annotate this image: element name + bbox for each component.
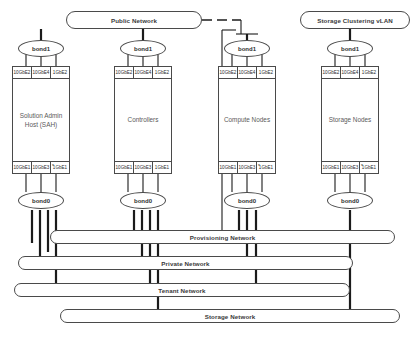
- port-1gbe1[interactable]: * 1GbE1: [51, 162, 69, 173]
- port-10gbe3[interactable]: 10GbE3: [32, 162, 51, 173]
- port-10gbe3[interactable]: 10GbE3: [341, 162, 360, 173]
- port-10gbe2[interactable]: 10GbE2: [219, 67, 238, 78]
- network-bar-label: Storage Clustering vLAN: [317, 17, 393, 24]
- bond-label: bond0: [32, 198, 50, 204]
- node-label-line1: Storage Nodes: [329, 115, 372, 124]
- port-label: 10GbE2: [14, 70, 31, 75]
- bond0-ellipse-controllers[interactable]: bond0: [120, 192, 166, 209]
- port-label: 10GbE1: [220, 165, 237, 170]
- port-1gbe2[interactable]: 1GbE2: [360, 67, 378, 78]
- node-label-line1: Controllers: [128, 115, 159, 124]
- bond0-ellipse-compute-nodes[interactable]: bond0: [224, 192, 270, 209]
- footnote-asterisk: *: [52, 164, 54, 169]
- network-bar-tenant-network[interactable]: Tenant Network: [14, 283, 350, 297]
- port-label: 10GbE3: [239, 165, 256, 170]
- network-bar-storage-clustering-vlan[interactable]: Storage Clustering vLAN: [300, 11, 410, 29]
- port-1gbe2[interactable]: 1GbE2: [153, 67, 171, 78]
- port-label: 10GbE3: [135, 165, 152, 170]
- node-body-solution-admin-host: Solution Admin Host (SAH): [12, 78, 70, 162]
- port-row-bottom-solution-admin-host: 10GbE1 10GbE3 * 1GbE1: [12, 161, 70, 174]
- port-label: 10GbE3: [33, 165, 50, 170]
- bond-label: bond0: [238, 198, 256, 204]
- bond-label: bond1: [32, 46, 50, 52]
- node-body-controllers: Controllers: [114, 78, 172, 162]
- port-label: 10GbE1: [323, 165, 340, 170]
- port-label: 10GbE3: [342, 165, 359, 170]
- port-label: 1GbE2: [362, 70, 376, 75]
- bond-label: bond0: [341, 198, 359, 204]
- port-row-bottom-compute-nodes: 10GbE1 10GbE3 * 1GbE1: [218, 161, 276, 174]
- port-label: 1GbE1: [259, 165, 273, 170]
- port-label: 10GbE4: [135, 70, 152, 75]
- port-10gbe2[interactable]: 10GbE2: [322, 67, 341, 78]
- port-10gbe1[interactable]: 10GbE1: [322, 162, 341, 173]
- port-label: 1GbE1: [362, 165, 376, 170]
- port-label: 10GbE4: [33, 70, 50, 75]
- port-label: 10GbE2: [116, 70, 133, 75]
- port-label: 10GbE1: [116, 165, 133, 170]
- port-10gbe2[interactable]: 10GbE2: [115, 67, 134, 78]
- bond0-ellipse-solution-admin-host[interactable]: bond0: [18, 192, 64, 209]
- port-label: 10GbE4: [342, 70, 359, 75]
- port-1gbe1[interactable]: * 1GbE1: [257, 162, 275, 173]
- bond1-ellipse-storage-nodes[interactable]: bond1: [327, 40, 373, 57]
- network-bar-private-network[interactable]: Private Network: [18, 256, 353, 270]
- port-row-bottom-storage-nodes: 10GbE1 10GbE3 * 1GbE1: [321, 161, 379, 174]
- port-label: 10GbE1: [14, 165, 31, 170]
- port-label: 1GbE2: [53, 70, 67, 75]
- port-label: 10GbE4: [239, 70, 256, 75]
- port-row-bottom-controllers: 10GbE1 10GbE3 1GbE1: [114, 161, 172, 174]
- port-10gbe3[interactable]: 10GbE3: [238, 162, 257, 173]
- node-label-line2: Host (SAH): [20, 120, 63, 129]
- node-solution-admin-host[interactable]: 10GbE2 10GbE4 1GbE2 Solution Admin Host …: [12, 66, 70, 174]
- footnote-asterisk: *: [361, 164, 363, 169]
- network-bar-provisioning-network[interactable]: Provisioning Network: [50, 230, 395, 244]
- port-label: 1GbE2: [259, 70, 273, 75]
- port-10gbe1[interactable]: 10GbE1: [115, 162, 134, 173]
- network-bar-label: Private Network: [161, 260, 209, 267]
- node-label-line1: Solution Admin: [20, 111, 63, 120]
- port-1gbe1[interactable]: * 1GbE1: [360, 162, 378, 173]
- port-10gbe4[interactable]: 10GbE4: [134, 67, 153, 78]
- port-label: 10GbE2: [220, 70, 237, 75]
- bond-label: bond1: [134, 46, 152, 52]
- port-10gbe3[interactable]: 10GbE3: [134, 162, 153, 173]
- bond-label: bond0: [134, 198, 152, 204]
- node-body-compute-nodes: Compute Nodes: [218, 78, 276, 162]
- bond1-ellipse-controllers[interactable]: bond1: [120, 40, 166, 57]
- port-10gbe4[interactable]: 10GbE4: [238, 67, 257, 78]
- node-compute-nodes[interactable]: 10GbE2 10GbE4 1GbE2 Compute Nodes 10GbE1…: [218, 66, 276, 174]
- port-label: 10GbE2: [323, 70, 340, 75]
- port-10gbe1[interactable]: 10GbE1: [13, 162, 32, 173]
- network-bar-label: Provisioning Network: [190, 234, 256, 241]
- port-1gbe2[interactable]: 1GbE2: [257, 67, 275, 78]
- node-controllers[interactable]: 10GbE2 10GbE4 1GbE2 Controllers 10GbE1 1…: [114, 66, 172, 174]
- port-10gbe4[interactable]: 10GbE4: [341, 67, 360, 78]
- port-label: 1GbE1: [53, 165, 67, 170]
- network-bar-label: Tenant Network: [158, 287, 205, 294]
- port-10gbe1[interactable]: 10GbE1: [219, 162, 238, 173]
- node-body-storage-nodes: Storage Nodes: [321, 78, 379, 162]
- bond-label: bond1: [341, 46, 359, 52]
- network-bar-label: Public Network: [111, 17, 157, 24]
- network-bar-label: Storage Network: [205, 313, 256, 320]
- port-10gbe4[interactable]: 10GbE4: [32, 67, 51, 78]
- footnote-asterisk: *: [258, 164, 260, 169]
- network-diagram: Public Network Storage Clustering vLAN b…: [0, 0, 417, 348]
- bond-label: bond1: [238, 46, 256, 52]
- network-bar-public-network[interactable]: Public Network: [66, 11, 202, 29]
- node-storage-nodes[interactable]: 10GbE2 10GbE4 1GbE2 Storage Nodes 10GbE1…: [321, 66, 379, 174]
- bond1-ellipse-compute-nodes[interactable]: bond1: [224, 40, 270, 57]
- port-label: 1GbE1: [155, 165, 169, 170]
- port-1gbe1[interactable]: 1GbE1: [153, 162, 171, 173]
- port-10gbe2[interactable]: 10GbE2: [13, 67, 32, 78]
- port-label: 1GbE2: [155, 70, 169, 75]
- network-bar-storage-network[interactable]: Storage Network: [60, 309, 400, 323]
- node-label-line1: Compute Nodes: [224, 115, 270, 124]
- bond1-ellipse-solution-admin-host[interactable]: bond1: [18, 40, 64, 57]
- port-1gbe2[interactable]: 1GbE2: [51, 67, 69, 78]
- bond0-ellipse-storage-nodes[interactable]: bond0: [327, 192, 373, 209]
